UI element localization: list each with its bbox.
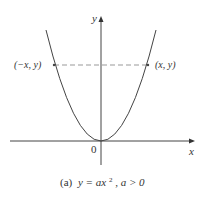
left-point-label: (−x, y) (14, 59, 42, 71)
y-axis-arrow-icon (99, 16, 104, 22)
x-axis-arrow-icon (189, 139, 195, 144)
origin-label: 0 (91, 143, 97, 155)
figure-caption: (a) y = ax 2 , a > 0 (60, 172, 145, 189)
parabola-diagram: y x 0 (−x, y) (x, y) (a) y = ax 2 , a > … (0, 0, 208, 197)
y-axis-label: y (91, 12, 97, 24)
caption-eq-rhs: = ax (86, 176, 107, 188)
left-point (53, 64, 55, 66)
caption-prefix: (a) (60, 176, 73, 189)
right-point-label: (x, y) (155, 59, 176, 71)
right-point (147, 64, 149, 66)
x-axis-label: x (188, 145, 194, 157)
caption-exponent: 2 (109, 176, 113, 184)
caption-eq-lhs: y (77, 176, 83, 188)
caption-condition: , a > 0 (115, 176, 145, 188)
